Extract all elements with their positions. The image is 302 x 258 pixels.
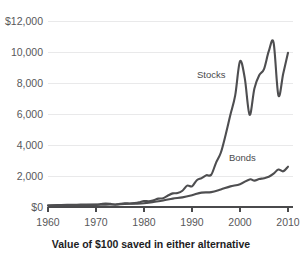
series-annotation-bonds: Bonds <box>229 152 256 163</box>
y-tick-label-8000: 8,000 <box>17 77 43 89</box>
y-tick-label-4000: 4,000 <box>17 139 43 151</box>
line-chart-canvas: $12,000 10,000 8,000 6,000 4,000 2,000 $… <box>0 0 302 258</box>
x-tick-label-1990: 1990 <box>180 216 204 228</box>
x-tick-label-2000: 2000 <box>228 216 252 228</box>
series-annotation-stocks: Stocks <box>197 69 226 80</box>
y-tick-label-12000: $12,000 <box>5 15 43 27</box>
y-tick-label-0: $0 <box>31 201 43 213</box>
chart-caption: Value of $100 saved in either alternativ… <box>52 238 251 250</box>
x-tick-label-1980: 1980 <box>132 216 156 228</box>
y-tick-label-2000: 2,000 <box>17 170 43 182</box>
x-tick-label-1970: 1970 <box>84 216 108 228</box>
x-tick-label-1960: 1960 <box>36 216 60 228</box>
x-tick-label-2010: 2010 <box>276 216 300 228</box>
y-tick-label-6000: 6,000 <box>17 108 43 120</box>
y-tick-label-10000: 10,000 <box>11 46 43 58</box>
chart-figure: $12,000 10,000 8,000 6,000 4,000 2,000 $… <box>0 0 302 258</box>
